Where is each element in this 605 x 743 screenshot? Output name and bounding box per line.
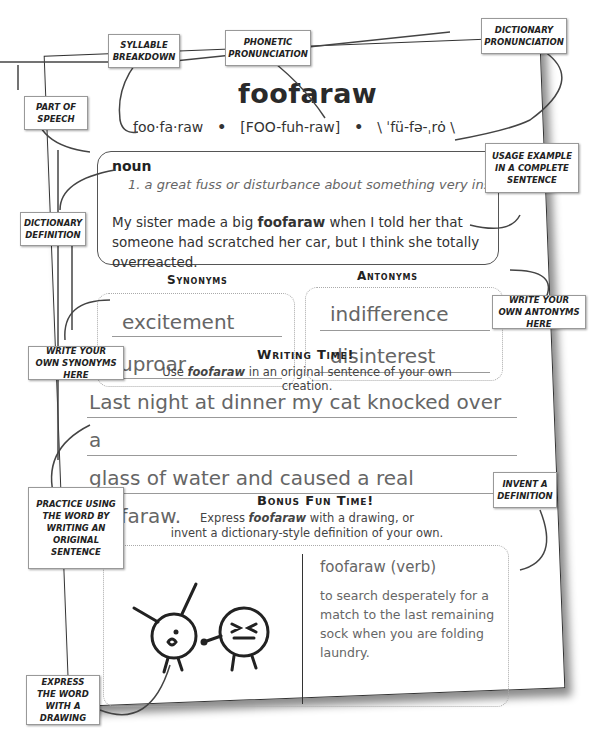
invented-title: foofaraw (verb): [320, 558, 436, 576]
pronunciation-row: foo·fa·raw • [FOO-fuh-raw] • \ ˈfü-fə-ˌr…: [133, 119, 463, 135]
headword: foofaraw: [238, 78, 377, 109]
bonus-instruction: Express foofaraw with a drawing, or inve…: [157, 511, 457, 541]
callout-usage-example: Usage example in a complete sentence: [485, 143, 579, 193]
callout-invent-definition: Invent a definition: [493, 472, 557, 508]
part-of-speech: noun: [112, 158, 152, 174]
sentence-line-1: Last night at dinner my cat knocked over…: [89, 383, 509, 459]
bonus-box[interactable]: foofaraw (verb) to search desperately fo…: [103, 545, 509, 707]
usage-example: My sister made a big foofaraw when I tol…: [112, 212, 487, 272]
callout-phonetic-pronunciation: Phonetic Pronunciation: [225, 30, 311, 66]
usage-text: My sister made a big: [112, 214, 258, 230]
synonyms-heading: Synonyms: [167, 273, 228, 287]
dictionary-pronunciation: \ ˈfü-fə-ˌrȯ \: [377, 119, 455, 135]
bonus-divider: [302, 554, 303, 704]
separator-dot: •: [217, 119, 226, 135]
writing-line: [112, 336, 282, 337]
instruction-text: with a drawing, or: [306, 511, 414, 525]
antonym-1: indifference: [330, 302, 449, 326]
separator-dot: •: [354, 119, 363, 135]
callout-part-of-speech: Part of Speech: [24, 96, 88, 130]
invented-definition: to search desperately for a match to the…: [320, 586, 495, 662]
antonyms-heading: Antonyms: [357, 269, 418, 283]
instruction-text: Express: [200, 511, 249, 525]
callout-dictionary-definition: Dictionary Definition: [20, 212, 86, 246]
instruction-word: foofaraw: [249, 511, 307, 525]
bonus-heading: Bonus Fun Time!: [257, 493, 374, 508]
callout-express-drawing: Express the word with a drawing: [26, 675, 100, 725]
writing-time-heading: Writing Time!: [257, 347, 354, 362]
callout-write-antonyms: Write your own antonyms here: [492, 295, 586, 329]
callout-syllable-breakdown: Syllable Breakdown: [108, 34, 180, 68]
instruction-text: Use: [162, 365, 187, 379]
usage-word: foofaraw: [258, 214, 326, 230]
instruction-text: invent a dictionary-style definition of …: [171, 526, 444, 540]
callout-dictionary-pronunciation: Dictionary Pronunciation: [481, 18, 567, 54]
phonetic-pronunciation: [FOO-fuh-raw]: [240, 119, 340, 135]
instruction-word: foofaraw: [187, 365, 245, 379]
drawing-characters-icon: [124, 574, 294, 684]
definition-box: noun 1. a great fuss or disturbance abou…: [97, 151, 499, 265]
syllable-breakdown: foo·fa·raw: [133, 119, 203, 135]
writing-line: [320, 330, 490, 331]
callout-write-synonyms: Write your own synonyms here: [28, 346, 124, 380]
synonym-1: excitement: [122, 310, 234, 334]
callout-practice-sentence: Practice using the word by writing an or…: [28, 487, 124, 569]
